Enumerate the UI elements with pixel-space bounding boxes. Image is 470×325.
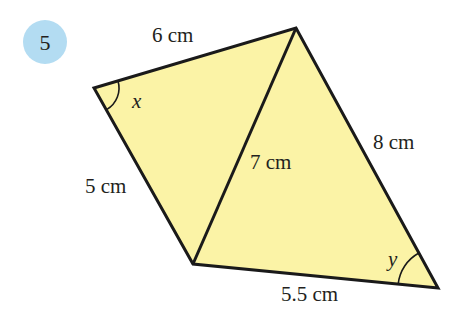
side-label-bottom-left: 5 cm [85, 174, 126, 198]
question-number-badge: 5 [23, 20, 67, 64]
side-label-bottom-right: 5.5 cm [281, 282, 338, 306]
side-label-top-right: 8 cm [373, 130, 414, 154]
side-label-diagonal: 7 cm [250, 150, 291, 174]
angle-label-y: y [386, 247, 398, 271]
quadrilateral-diagram: 5 6 cm 5 cm 7 cm 8 cm 5.5 cm x y [0, 0, 470, 325]
angle-label-x: x [131, 89, 142, 113]
question-number: 5 [40, 30, 51, 55]
side-label-top-left: 6 cm [152, 23, 193, 47]
